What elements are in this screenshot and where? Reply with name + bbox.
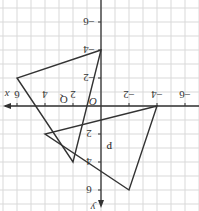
x-tick-label: 4 — [42, 89, 48, 101]
triangle-label-p: P — [106, 140, 112, 152]
y-tick-label: −6 — [83, 16, 95, 28]
x-tick-label: −2 — [123, 89, 135, 101]
y-axis-label: y — [90, 202, 96, 211]
y-tick-label: −2 — [83, 72, 95, 84]
y-tick-label: −4 — [83, 44, 95, 56]
x-tick-label: 2 — [70, 89, 76, 101]
y-tick-label: 2 — [86, 128, 92, 140]
labels: −6−4−2246−6−4−2246OxyQP — [4, 16, 190, 211]
x-tick-label: 6 — [14, 89, 20, 101]
y-tick-label: 6 — [86, 184, 92, 196]
coordinate-plane: −6−4−2246−6−4−2246OxyQP — [0, 0, 199, 211]
x-axis-arrow-icon — [3, 103, 11, 109]
x-tick-label: −6 — [179, 89, 191, 101]
x-tick-label: −4 — [151, 89, 163, 101]
triangle-label-q: Q — [60, 94, 68, 106]
y-tick-label: 4 — [86, 156, 92, 168]
x-axis-label: x — [4, 89, 10, 101]
origin-label: O — [89, 96, 97, 108]
